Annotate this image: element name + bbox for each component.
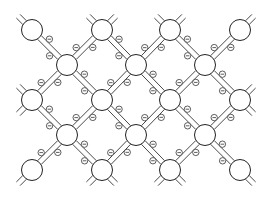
electron-icon bbox=[124, 79, 130, 85]
atom-node bbox=[92, 20, 113, 41]
electron-icon bbox=[211, 114, 217, 120]
atom-node bbox=[160, 20, 181, 41]
atom-node bbox=[57, 55, 78, 76]
electron-icon bbox=[46, 106, 52, 112]
electron-icon bbox=[142, 114, 148, 120]
electron-icon bbox=[150, 71, 156, 77]
atom-node bbox=[92, 160, 113, 181]
electron-icon bbox=[46, 36, 52, 42]
electron-icon bbox=[46, 53, 52, 59]
crystal-lattice-diagram bbox=[0, 0, 276, 204]
atom-node bbox=[126, 55, 147, 76]
electron-icon bbox=[73, 44, 79, 50]
electron-icon bbox=[158, 44, 164, 50]
atom-node bbox=[57, 125, 78, 146]
electron-icon bbox=[81, 71, 87, 77]
electron-icon bbox=[116, 53, 122, 59]
electron-icon bbox=[142, 44, 148, 50]
electron-icon bbox=[176, 79, 182, 85]
atom-node bbox=[195, 125, 216, 146]
electron-icon bbox=[228, 114, 234, 120]
atom-node bbox=[230, 160, 251, 181]
electron-icon bbox=[228, 44, 234, 50]
electron-icon bbox=[108, 149, 114, 155]
atom-node bbox=[22, 160, 43, 181]
electron-icon bbox=[219, 141, 225, 147]
electron-icon bbox=[116, 36, 122, 42]
electron-icon bbox=[193, 79, 199, 85]
atom-node bbox=[22, 20, 43, 41]
electron-icon bbox=[90, 44, 96, 50]
electron-icon bbox=[116, 106, 122, 112]
electron-icon bbox=[55, 149, 61, 155]
electron-icon bbox=[81, 158, 87, 164]
electron-icon bbox=[158, 114, 164, 120]
atoms-layer bbox=[22, 20, 251, 181]
electron-icon bbox=[73, 114, 79, 120]
atom-node bbox=[195, 55, 216, 76]
atom-node bbox=[92, 90, 113, 111]
electron-icon bbox=[219, 88, 225, 94]
electron-icon bbox=[184, 36, 190, 42]
electron-icon bbox=[184, 123, 190, 129]
electron-icon bbox=[55, 79, 61, 85]
electron-icon bbox=[150, 141, 156, 147]
electron-icon bbox=[150, 158, 156, 164]
electron-icon bbox=[184, 106, 190, 112]
electron-icon bbox=[193, 149, 199, 155]
electron-icon bbox=[219, 158, 225, 164]
atom-node bbox=[22, 90, 43, 111]
electron-icon bbox=[108, 79, 114, 85]
electron-icon bbox=[219, 71, 225, 77]
atom-node bbox=[160, 90, 181, 111]
electron-icon bbox=[184, 53, 190, 59]
electron-icon bbox=[38, 149, 44, 155]
electron-icon bbox=[211, 44, 217, 50]
atom-node bbox=[230, 90, 251, 111]
electron-icon bbox=[38, 79, 44, 85]
electron-icon bbox=[81, 141, 87, 147]
atom-node bbox=[126, 125, 147, 146]
electron-icon bbox=[90, 114, 96, 120]
electron-icon bbox=[150, 88, 156, 94]
electron-icon bbox=[81, 88, 87, 94]
electron-icon bbox=[124, 149, 130, 155]
electron-icon bbox=[116, 123, 122, 129]
electron-icon bbox=[46, 123, 52, 129]
atom-node bbox=[230, 20, 251, 41]
atom-node bbox=[160, 160, 181, 181]
electron-icon bbox=[176, 149, 182, 155]
